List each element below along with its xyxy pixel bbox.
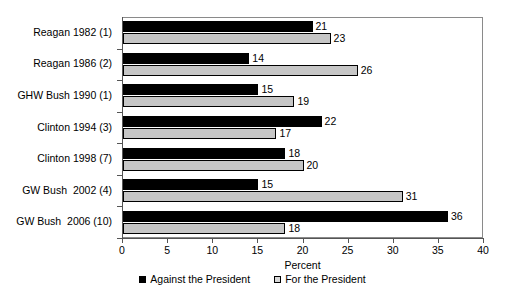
legend-swatch-against-icon: [139, 276, 146, 283]
x-axis-tick: [438, 239, 439, 243]
chart-legend: Against the President For the President: [0, 272, 505, 286]
bar-value-label: 23: [334, 33, 346, 44]
x-axis-tick: [303, 239, 304, 243]
category-label: Reagan 1986 (2): [0, 58, 112, 69]
legend-item-for[interactable]: For the President: [274, 273, 366, 285]
bar-value-label: 15: [261, 179, 273, 190]
x-axis-title: Percent: [122, 259, 483, 271]
bar-for-the-president: [123, 96, 294, 107]
category-axis-labels: Reagan 1982 (1)Reagan 1986 (2)GHW Bush 1…: [0, 17, 116, 238]
category-label: GHW Bush 1990 (1): [0, 90, 112, 101]
bar-against-the-president: [123, 21, 313, 32]
x-axis-tick: [393, 239, 394, 243]
bar-value-label: 19: [297, 96, 309, 107]
category-label: Clinton 1998 (7): [0, 153, 112, 164]
x-axis-tick: [167, 239, 168, 243]
bar-value-label: 21: [316, 21, 328, 32]
x-axis-tick-label: 15: [242, 244, 272, 256]
legend-label-against: Against the President: [150, 273, 250, 285]
bar-for-the-president: [123, 191, 403, 202]
x-axis-tick-label: 30: [378, 244, 408, 256]
bar-value-label: 15: [261, 84, 273, 95]
x-axis-tick-label: 35: [423, 244, 453, 256]
bar-value-label: 31: [406, 191, 418, 202]
bar-against-the-president: [123, 116, 322, 127]
x-axis-tick: [257, 239, 258, 243]
bar-value-label: 22: [325, 116, 337, 127]
bar-value-label: 26: [361, 65, 373, 76]
bar-value-label: 36: [451, 211, 463, 222]
legend-item-against[interactable]: Against the President: [139, 273, 250, 285]
legend-label-for: For the President: [285, 273, 366, 285]
bars-layer: 2123142615192217182015313618: [123, 18, 483, 238]
x-axis-tick: [348, 239, 349, 243]
legend-swatch-for-icon: [274, 276, 281, 283]
bar-against-the-president: [123, 53, 249, 64]
bar-for-the-president: [123, 33, 331, 44]
bar-value-label: 18: [288, 223, 300, 234]
x-axis-tick-label: 5: [152, 244, 182, 256]
x-axis-tick: [483, 239, 484, 243]
bar-for-the-president: [123, 128, 276, 139]
category-label: GW Bush 2006 (10): [0, 216, 112, 227]
x-axis-tick: [212, 239, 213, 243]
category-label: Clinton 1994 (3): [0, 122, 112, 133]
x-axis-tick-label: 20: [288, 244, 318, 256]
bar-chart: Reagan 1982 (1)Reagan 1986 (2)GHW Bush 1…: [0, 0, 505, 291]
x-axis-tick: [122, 239, 123, 243]
bar-value-label: 18: [288, 148, 300, 159]
bar-against-the-president: [123, 148, 285, 159]
category-label: Reagan 1982 (1): [0, 27, 112, 38]
bar-for-the-president: [123, 160, 304, 171]
x-axis-tick-label: 10: [197, 244, 227, 256]
bar-value-label: 14: [252, 53, 264, 64]
bar-for-the-president: [123, 223, 285, 234]
bar-value-label: 20: [307, 160, 319, 171]
x-axis-tick-label: 40: [468, 244, 498, 256]
bar-value-label: 17: [279, 128, 291, 139]
x-axis-tick-label: 0: [107, 244, 137, 256]
bar-against-the-president: [123, 179, 258, 190]
bar-for-the-president: [123, 65, 358, 76]
category-label: GW Bush 2002 (4): [0, 185, 112, 196]
bar-against-the-president: [123, 211, 448, 222]
bar-against-the-president: [123, 84, 258, 95]
x-axis-tick-label: 25: [333, 244, 363, 256]
